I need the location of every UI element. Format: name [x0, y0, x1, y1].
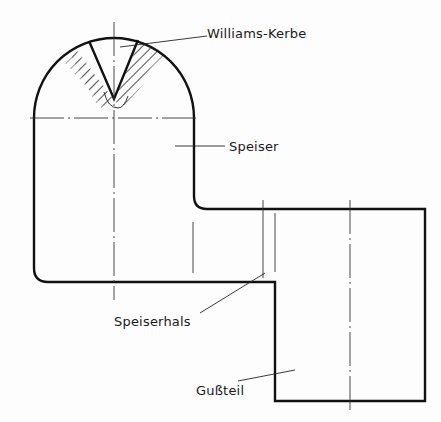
center-lines — [30, 22, 350, 412]
williams-notch-hatch — [48, 38, 170, 110]
drawing-canvas: Williams-Kerbe Speiser Speiserhals Gußte… — [0, 0, 441, 422]
label-speiserhals: Speiserhals — [114, 314, 191, 329]
label-gussteil: Gußteil — [196, 383, 244, 398]
label-speiser: Speiser — [229, 139, 279, 154]
technical-drawing: Williams-Kerbe Speiser Speiserhals Gußte… — [0, 0, 441, 422]
label-williams-kerbe: Williams-Kerbe — [207, 26, 306, 41]
construction-lines — [193, 200, 275, 278]
